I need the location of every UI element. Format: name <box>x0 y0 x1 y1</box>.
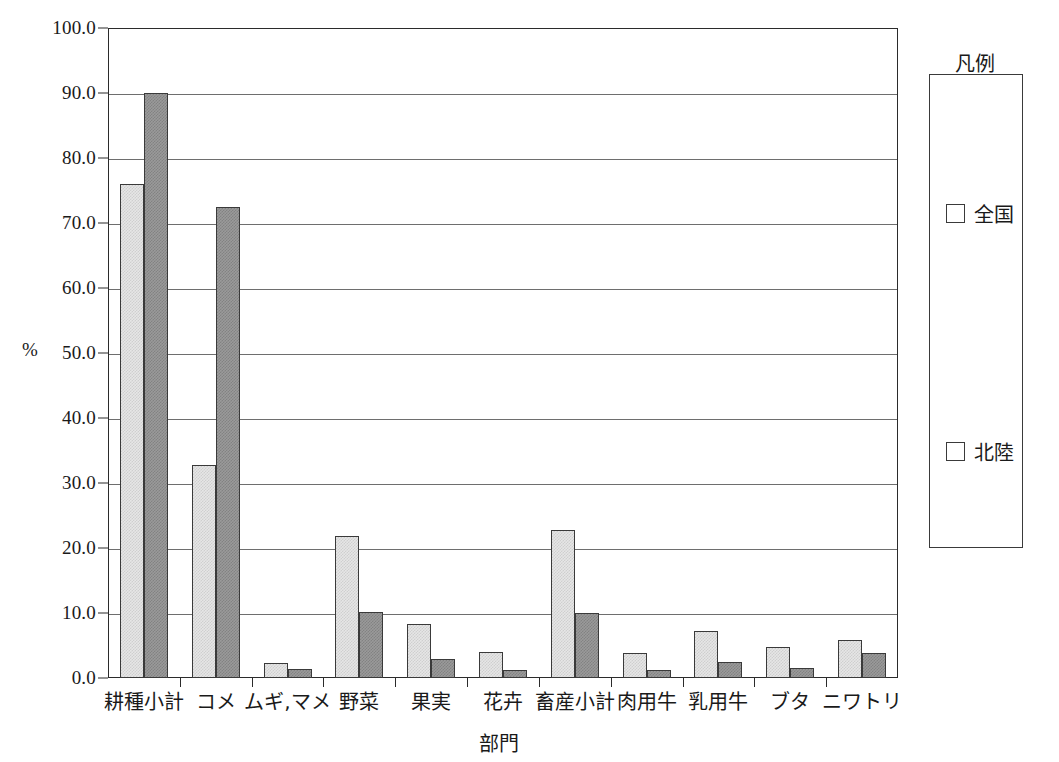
x-axis-category-label: ニワトリ <box>822 686 902 715</box>
x-axis-category-label: 野菜 <box>339 686 379 715</box>
bar <box>647 670 671 678</box>
y-axis-tick-label: 30.0 <box>62 472 96 494</box>
x-axis-category-label: ムギ,マメ <box>244 686 330 715</box>
bar <box>120 184 144 678</box>
y-axis-tick-mark <box>98 418 108 419</box>
legend-entry: 全国 <box>946 199 1014 228</box>
x-axis-category-label: 果実 <box>411 686 451 715</box>
y-axis-tick-label: 80.0 <box>62 147 96 169</box>
bar-group <box>694 28 742 678</box>
y-axis-tick-label: 90.0 <box>62 82 96 104</box>
y-axis-tick-mark <box>98 28 108 29</box>
y-axis-tick-label: 100.0 <box>52 17 96 39</box>
bar <box>359 612 383 678</box>
bar <box>407 624 431 678</box>
x-axis-category-label: コメ <box>196 686 236 715</box>
x-axis-category-label: 肉用牛 <box>617 686 677 715</box>
x-axis-category-label: 畜産小計 <box>535 686 615 715</box>
y-axis-tick-mark <box>98 613 108 614</box>
y-axis-tick-label: 10.0 <box>62 602 96 624</box>
bar <box>575 613 599 678</box>
x-axis-category-label: 耕種小計 <box>104 686 184 715</box>
bar-group <box>766 28 814 678</box>
bar <box>144 93 168 678</box>
bar <box>766 647 790 678</box>
bar <box>623 653 647 678</box>
bar <box>479 652 503 678</box>
bar <box>503 670 527 678</box>
y-axis-tick-mark <box>98 223 108 224</box>
bars-layer <box>108 28 898 678</box>
bar-group <box>407 28 455 678</box>
bar-group <box>479 28 527 678</box>
y-axis-tick-mark <box>98 158 108 159</box>
bar-group <box>838 28 886 678</box>
y-axis-tick-label: 40.0 <box>62 407 96 429</box>
legend-title: 凡例 <box>955 48 995 77</box>
bar-group <box>120 28 168 678</box>
legend-label: 全国 <box>974 199 1014 228</box>
bar <box>862 653 886 678</box>
legend-box: 全国北陸 <box>929 74 1023 548</box>
x-axis-category-label: ブタ <box>770 686 810 715</box>
bar-group <box>192 28 240 678</box>
bar <box>216 207 240 678</box>
bar <box>718 662 742 678</box>
bar-chart: % 100.090.080.070.060.050.040.030.020.01… <box>0 0 1059 762</box>
legend-swatch-icon <box>946 204 965 223</box>
legend-entry: 北陸 <box>946 437 1014 466</box>
x-axis-title: 部門 <box>479 728 519 757</box>
y-axis-tick-mark <box>98 93 108 94</box>
y-axis-tick-label: 60.0 <box>62 277 96 299</box>
x-axis-category-labels: 耕種小計コメムギ,マメ野菜果実花卉畜産小計肉用牛乳用牛ブタニワトリ <box>0 686 1059 726</box>
y-axis-tick-mark <box>98 483 108 484</box>
bar <box>264 663 288 678</box>
y-axis-tick-mark <box>98 678 108 679</box>
bar <box>551 530 575 678</box>
bar <box>694 631 718 678</box>
y-axis-tick-label: 20.0 <box>62 537 96 559</box>
y-axis-tick-label: 70.0 <box>62 212 96 234</box>
bar <box>431 659 455 678</box>
bar <box>790 668 814 678</box>
bar-group <box>335 28 383 678</box>
y-axis-tick-label: 50.0 <box>62 342 96 364</box>
bar <box>288 669 312 678</box>
bar <box>838 640 862 678</box>
bar-group <box>551 28 599 678</box>
bar-group <box>264 28 312 678</box>
y-axis-tick-mark <box>98 548 108 549</box>
x-axis-category-label: 花卉 <box>483 686 523 715</box>
y-axis-tick-mark <box>98 353 108 354</box>
x-axis-category-label: 乳用牛 <box>688 686 748 715</box>
y-axis-tick-mark <box>98 288 108 289</box>
legend-swatch-icon <box>946 442 965 461</box>
bar <box>335 536 359 678</box>
y-axis-tick-labels: 100.090.080.070.060.050.040.030.020.010.… <box>0 0 104 762</box>
legend-label: 北陸 <box>974 437 1014 466</box>
bar <box>192 465 216 678</box>
bar-group <box>623 28 671 678</box>
